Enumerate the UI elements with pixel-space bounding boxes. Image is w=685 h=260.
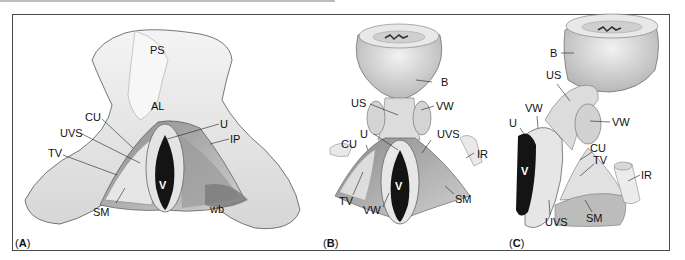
label-c-b: B	[550, 48, 557, 59]
label-b-v: V	[395, 181, 402, 192]
label-c-ir: IR	[641, 170, 652, 181]
label-b-vw-top: VW	[436, 101, 454, 112]
panel-label-c: (C)	[509, 238, 524, 249]
label-c-uvs: UVS	[545, 217, 568, 228]
label-a-v: V	[159, 180, 166, 191]
label-c-u: U	[509, 118, 517, 129]
panel-c-illustration	[516, 14, 659, 228]
anatomy-illustration	[0, 0, 685, 260]
label-a-ps: PS	[150, 45, 165, 56]
panel-label-b: (B)	[323, 238, 338, 249]
label-a-ip: IP	[230, 134, 240, 145]
label-b-vw-bottom: VW	[363, 205, 381, 216]
label-c-tv: TV	[593, 155, 607, 166]
label-b-u: U	[360, 129, 368, 140]
panel-label-a: (A)	[15, 238, 30, 249]
label-c-vw-left: VW	[525, 103, 543, 114]
label-c-us: US	[546, 70, 561, 81]
label-a-sm: SM	[93, 207, 110, 218]
label-a-al: AL	[151, 101, 164, 112]
label-b-us: US	[351, 98, 366, 109]
label-c-sm: SM	[586, 213, 603, 224]
label-b-tv: TV	[339, 196, 353, 207]
label-b-uvs: UVS	[437, 129, 460, 140]
label-a-tv: TV	[48, 148, 62, 159]
label-a-cu: CU	[85, 112, 101, 123]
label-b-sm: SM	[455, 194, 472, 205]
label-c-cu: CU	[590, 143, 606, 154]
label-a-u: U	[220, 119, 228, 130]
label-c-v: V	[521, 166, 528, 177]
label-b-b: B	[441, 77, 448, 88]
label-b-ir: IR	[477, 149, 488, 160]
label-a-wb: wb	[210, 204, 224, 215]
label-c-vw-right: VW	[612, 117, 630, 128]
label-b-cu: CU	[341, 139, 357, 150]
label-a-uvs: UVS	[60, 128, 83, 139]
